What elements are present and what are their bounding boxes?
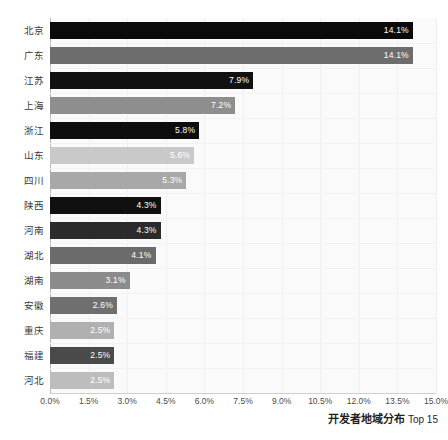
gridline-horizontal bbox=[50, 168, 436, 169]
bar-value-label: 3.1% bbox=[106, 276, 130, 285]
y-axis-label-9: 湖北 bbox=[0, 247, 46, 264]
bar-value-label: 2.5% bbox=[90, 376, 114, 385]
bar: 4.1% bbox=[50, 247, 156, 264]
bar: 2.5% bbox=[50, 322, 114, 339]
y-axis-label-5: 山东 bbox=[0, 147, 46, 164]
gridline-horizontal bbox=[50, 318, 436, 319]
bar-row: 14.1% bbox=[50, 47, 413, 64]
bar: 14.1% bbox=[50, 22, 413, 39]
x-axis-tick-labels: 0.0%1.5%3.0%4.5%6.0%7.5%9.0%10.5%12.0%13… bbox=[50, 394, 436, 410]
x-tick-label-3: 4.5% bbox=[156, 394, 175, 408]
gridline-horizontal bbox=[50, 68, 436, 69]
bar-row: 2.5% bbox=[50, 372, 114, 389]
y-axis-label-12: 重庆 bbox=[0, 322, 46, 339]
gridline-horizontal bbox=[50, 268, 436, 269]
x-tick-label-8: 12.0% bbox=[347, 394, 371, 408]
bar-row: 5.8% bbox=[50, 122, 199, 139]
gridline-vertical bbox=[359, 18, 360, 393]
x-tick-label-2: 3.0% bbox=[118, 394, 137, 408]
bar-row: 5.6% bbox=[50, 147, 194, 164]
gridline-vertical bbox=[282, 18, 283, 393]
bar-value-label: 4.3% bbox=[136, 226, 160, 235]
bar-value-label: 5.3% bbox=[162, 176, 186, 185]
gridline-horizontal bbox=[50, 193, 436, 194]
chart-title-cn: 开发者地域分布 bbox=[328, 413, 405, 425]
x-tick-label-1: 1.5% bbox=[79, 394, 98, 408]
y-axis-label-0: 北京 bbox=[0, 22, 46, 39]
plot-area: 14.1%14.1%7.9%7.2%5.8%5.6%5.3%4.3%4.3%4.… bbox=[50, 18, 436, 393]
x-tick-label-9: 13.5% bbox=[385, 394, 409, 408]
gridline-vertical bbox=[436, 18, 437, 393]
bar-row: 5.3% bbox=[50, 172, 186, 189]
y-axis-category-labels: 北京广东江苏上海浙江山东四川陕西河南湖北湖南安徽重庆福建河北 bbox=[0, 18, 46, 393]
y-axis-label-3: 上海 bbox=[0, 97, 46, 114]
bar-row: 2.5% bbox=[50, 347, 114, 364]
bar-value-label: 14.1% bbox=[384, 26, 413, 35]
y-axis-label-11: 安徽 bbox=[0, 297, 46, 314]
bar-row: 4.1% bbox=[50, 247, 156, 264]
bar-value-label: 7.9% bbox=[229, 76, 253, 85]
bar-row: 3.1% bbox=[50, 272, 130, 289]
bar: 14.1% bbox=[50, 47, 413, 64]
bar-row: 2.6% bbox=[50, 297, 117, 314]
x-tick-label-10: 15.0% bbox=[424, 394, 448, 408]
gridline-horizontal bbox=[50, 93, 436, 94]
bar: 3.1% bbox=[50, 272, 130, 289]
bar: 2.6% bbox=[50, 297, 117, 314]
bar: 5.3% bbox=[50, 172, 186, 189]
bar: 2.5% bbox=[50, 372, 114, 389]
bar: 4.3% bbox=[50, 197, 161, 214]
y-axis-label-1: 广东 bbox=[0, 47, 46, 64]
bar: 7.9% bbox=[50, 72, 253, 89]
gridline-vertical bbox=[320, 18, 321, 393]
gridline-horizontal bbox=[50, 118, 436, 119]
bar-row: 7.9% bbox=[50, 72, 253, 89]
bar-value-label: 14.1% bbox=[384, 51, 413, 60]
bar-value-label: 2.5% bbox=[90, 326, 114, 335]
bar-row: 7.2% bbox=[50, 97, 235, 114]
bar: 7.2% bbox=[50, 97, 235, 114]
y-axis-label-4: 浙江 bbox=[0, 122, 46, 139]
bar-value-label: 7.2% bbox=[211, 101, 235, 110]
bar: 4.3% bbox=[50, 222, 161, 239]
bar-row: 2.5% bbox=[50, 322, 114, 339]
bar-row: 4.3% bbox=[50, 222, 161, 239]
y-axis-label-10: 湖南 bbox=[0, 272, 46, 289]
bar-value-label: 2.6% bbox=[93, 301, 117, 310]
x-tick-label-4: 6.0% bbox=[195, 394, 214, 408]
y-axis-label-6: 四川 bbox=[0, 172, 46, 189]
y-axis-label-13: 福建 bbox=[0, 347, 46, 364]
gridline-horizontal bbox=[50, 343, 436, 344]
y-axis-label-8: 河南 bbox=[0, 222, 46, 239]
bar-value-label: 4.1% bbox=[131, 251, 155, 260]
bar: 2.5% bbox=[50, 347, 114, 364]
bar-value-label: 5.6% bbox=[170, 151, 194, 160]
chart-title: 开发者地域分布 Top 15 bbox=[328, 412, 438, 427]
y-axis-label-7: 陕西 bbox=[0, 197, 46, 214]
gridline-horizontal bbox=[50, 293, 436, 294]
gridline-horizontal bbox=[50, 368, 436, 369]
gridline-vertical bbox=[397, 18, 398, 393]
gridline-horizontal bbox=[50, 143, 436, 144]
bar: 5.6% bbox=[50, 147, 194, 164]
bar-value-label: 5.8% bbox=[175, 126, 199, 135]
y-axis-label-14: 河北 bbox=[0, 372, 46, 389]
bar-value-label: 2.5% bbox=[90, 351, 114, 360]
bar-row: 14.1% bbox=[50, 22, 413, 39]
bar: 5.8% bbox=[50, 122, 199, 139]
x-tick-label-0: 0.0% bbox=[40, 394, 59, 408]
gridline-horizontal bbox=[50, 43, 436, 44]
y-axis-label-2: 江苏 bbox=[0, 72, 46, 89]
gridline-horizontal bbox=[50, 218, 436, 219]
x-tick-label-5: 7.5% bbox=[233, 394, 252, 408]
bar-row: 4.3% bbox=[50, 197, 161, 214]
gridline-horizontal bbox=[50, 243, 436, 244]
x-tick-label-6: 9.0% bbox=[272, 394, 291, 408]
chart-title-en: Top 15 bbox=[408, 414, 438, 425]
x-tick-label-7: 10.5% bbox=[308, 394, 332, 408]
bar-value-label: 4.3% bbox=[136, 201, 160, 210]
